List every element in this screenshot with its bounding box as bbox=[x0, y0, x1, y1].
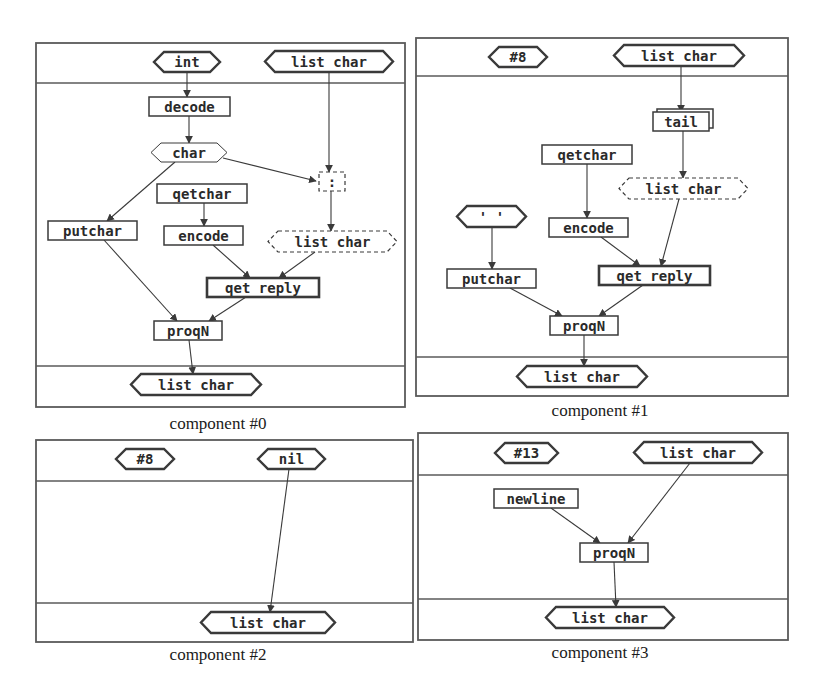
node-in-list[interactable]: list char bbox=[265, 51, 393, 72]
node-label: char bbox=[172, 145, 206, 161]
node-decode[interactable]: decode bbox=[149, 97, 230, 116]
node-label: list char bbox=[291, 54, 367, 70]
node-label: tail bbox=[664, 114, 698, 130]
node-in-8[interactable]: #8 bbox=[489, 47, 547, 67]
dataflow-edge bbox=[189, 340, 193, 374]
node-label: int bbox=[174, 54, 199, 70]
node-label: newline bbox=[506, 491, 565, 507]
dataflow-edge bbox=[213, 245, 250, 278]
component-2: #8nillist char bbox=[36, 440, 413, 642]
node-label: list char bbox=[641, 48, 717, 64]
node-label: qet reply bbox=[225, 280, 301, 296]
node-label: #8 bbox=[510, 49, 527, 65]
node-in-list[interactable]: list char bbox=[634, 442, 762, 463]
node-label: nil bbox=[279, 451, 304, 467]
node-in-list[interactable]: list char bbox=[614, 45, 744, 66]
node-putchar[interactable]: putchar bbox=[48, 221, 137, 240]
node-in-8[interactable]: #8 bbox=[116, 449, 174, 469]
node-putchar[interactable]: putchar bbox=[447, 269, 536, 288]
node-label: proqN bbox=[563, 318, 605, 334]
node-encode[interactable]: encode bbox=[549, 218, 628, 237]
node-list-mid[interactable]: list char bbox=[619, 178, 748, 199]
node-encode[interactable]: encode bbox=[164, 226, 243, 245]
node-newline[interactable]: newline bbox=[494, 489, 578, 508]
node-get-reply[interactable]: qet reply bbox=[207, 278, 319, 297]
dataflow-edge bbox=[601, 237, 640, 266]
node-char[interactable]: char bbox=[151, 143, 227, 162]
node-getchar[interactable]: qetchar bbox=[542, 145, 632, 164]
component-1: #8list chartailqetcharlist char' 'encode… bbox=[416, 38, 788, 396]
dataflow-edge bbox=[599, 285, 643, 316]
node-out-list[interactable]: list char bbox=[546, 607, 674, 628]
component-0: intlist chardecodechar:qetcharputcharenc… bbox=[36, 43, 405, 407]
node-label: list char bbox=[646, 181, 722, 197]
node-label: proqN bbox=[167, 323, 209, 339]
node-list-mid[interactable]: list char bbox=[268, 231, 397, 252]
dataflow-edge bbox=[279, 252, 315, 278]
node-label: decode bbox=[164, 99, 215, 115]
node-label: qet reply bbox=[617, 268, 693, 284]
dataflow-edge bbox=[223, 158, 316, 181]
node-out-list[interactable]: list char bbox=[517, 366, 647, 387]
node-label: #8 bbox=[137, 451, 154, 467]
node-progn[interactable]: proqN bbox=[154, 321, 222, 340]
node-in-nil[interactable]: nil bbox=[258, 449, 325, 469]
truncated-footnote bbox=[0, 690, 831, 699]
component-caption: component #1 bbox=[552, 401, 649, 421]
component-caption: component #0 bbox=[170, 414, 267, 434]
node-cons[interactable]: : bbox=[319, 172, 345, 191]
node-label: list char bbox=[158, 377, 234, 393]
dataflow-edge bbox=[270, 469, 289, 612]
node-label: list char bbox=[660, 445, 736, 461]
dataflow-edge bbox=[104, 240, 177, 321]
component-caption: component #3 bbox=[552, 643, 649, 663]
node-progn[interactable]: proqN bbox=[580, 543, 648, 562]
node-quote-space[interactable]: ' ' bbox=[457, 206, 526, 227]
node-label: proqN bbox=[593, 545, 635, 561]
node-label: qetchar bbox=[557, 147, 616, 163]
node-label: : bbox=[328, 174, 336, 190]
node-label: #13 bbox=[514, 445, 539, 461]
node-tail[interactable]: tail bbox=[653, 109, 713, 131]
node-label: qetchar bbox=[172, 186, 231, 202]
node-label: putchar bbox=[462, 271, 521, 287]
component-caption: component #2 bbox=[170, 645, 267, 665]
node-get-reply[interactable]: qet reply bbox=[599, 266, 710, 285]
dataflow-edge bbox=[551, 508, 600, 543]
node-out-list[interactable]: list char bbox=[201, 612, 335, 633]
node-label: encode bbox=[178, 228, 229, 244]
node-label: list char bbox=[295, 234, 371, 250]
node-label: list char bbox=[230, 615, 306, 631]
node-label: list char bbox=[544, 369, 620, 385]
dataflow-diagram: intlist chardecodechar:qetcharputcharenc… bbox=[0, 0, 831, 699]
node-label: ' ' bbox=[479, 209, 504, 225]
dataflow-edge bbox=[614, 562, 616, 607]
node-label: putchar bbox=[63, 223, 122, 239]
node-in-13[interactable]: #13 bbox=[495, 443, 558, 463]
dataflow-edge bbox=[209, 297, 246, 321]
node-out-list[interactable]: list char bbox=[131, 374, 261, 395]
component-3: #13list charnewlineproqNlist char bbox=[418, 433, 788, 640]
node-label: list char bbox=[572, 610, 648, 626]
node-label: encode bbox=[563, 220, 614, 236]
dataflow-edge bbox=[661, 199, 679, 266]
dataflow-edge bbox=[510, 288, 562, 316]
node-in-int[interactable]: int bbox=[154, 52, 220, 72]
node-progn[interactable]: proqN bbox=[550, 316, 618, 335]
node-getchar[interactable]: qetchar bbox=[157, 184, 247, 203]
